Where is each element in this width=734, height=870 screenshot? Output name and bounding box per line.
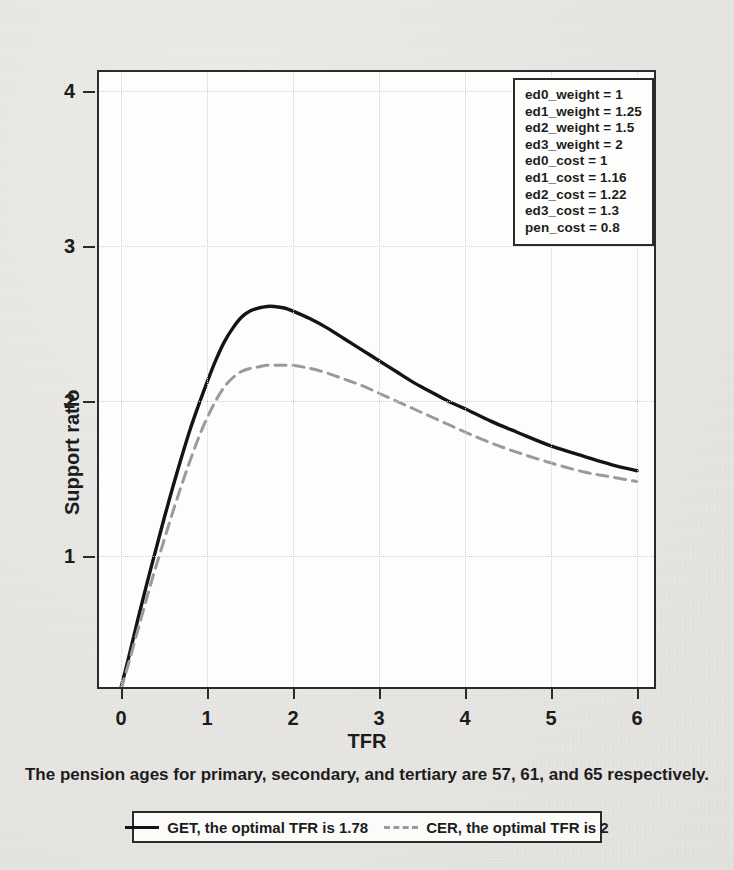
y-axis-tick [83, 246, 95, 248]
parameter-line-1: ed1_weight = 1.25 [525, 104, 642, 121]
x-axis-tick [379, 687, 381, 699]
gridline-vertical [121, 72, 122, 687]
x-axis-tick-label: 5 [531, 707, 571, 730]
parameter-line-0: ed0_weight = 1 [525, 87, 642, 104]
x-axis-tick [637, 687, 639, 699]
legend-item-get[interactable]: GET, the optimal TFR is 1.78 [125, 819, 368, 836]
x-axis-tick [465, 687, 467, 699]
x-axis-tick-label: 4 [445, 707, 485, 730]
legend-label-cer: CER, the optimal TFR is 2 [426, 819, 609, 836]
x-axis-tick [293, 687, 295, 699]
x-axis-label: TFR [0, 730, 734, 753]
parameter-line-4: ed0_cost = 1 [525, 153, 642, 170]
y-axis-tick-label: 4 [35, 80, 75, 103]
legend-label-get: GET, the optimal TFR is 1.78 [167, 819, 368, 836]
legend-item-cer[interactable]: CER, the optimal TFR is 2 [384, 819, 609, 836]
chart-legend: GET, the optimal TFR is 1.78 CER, the op… [132, 811, 602, 843]
y-axis-tick-label: 1 [35, 545, 75, 568]
gridline-horizontal [99, 556, 654, 557]
gridline-vertical [207, 72, 208, 687]
parameter-line-8: pen_cost = 0.8 [525, 220, 642, 237]
x-axis-tick-label: 6 [617, 707, 657, 730]
parameter-line-5: ed1_cost = 1.16 [525, 170, 642, 187]
y-axis-tick [83, 91, 95, 93]
gridline-horizontal [99, 401, 654, 402]
y-axis-tick [83, 556, 95, 558]
figure-chart-support-ratio-vs-tfr: 1234 0123456 Support ratio TFR ed0_weigh… [0, 0, 734, 870]
x-axis-tick-label: 1 [187, 707, 227, 730]
parameter-line-7: ed3_cost = 1.3 [525, 203, 642, 220]
gridline-vertical [379, 72, 380, 687]
y-axis-tick-label: 3 [35, 235, 75, 258]
x-axis-tick [207, 687, 209, 699]
y-axis-tick [83, 401, 95, 403]
dashed-line-icon [384, 826, 418, 829]
parameter-line-3: ed3_weight = 2 [525, 137, 642, 154]
x-axis-tick-label: 3 [359, 707, 399, 730]
parameter-line-2: ed2_weight = 1.5 [525, 120, 642, 137]
parameter-annotation-box: ed0_weight = 1ed1_weight = 1.25ed2_weigh… [513, 78, 654, 246]
parameter-line-6: ed2_cost = 1.22 [525, 187, 642, 204]
x-axis-tick-label: 2 [273, 707, 313, 730]
x-axis-tick [551, 687, 553, 699]
figure-caption: The pension ages for primary, secondary,… [0, 765, 734, 785]
x-axis-tick-label: 0 [101, 707, 141, 730]
y-axis-label: Support ratio [61, 389, 84, 515]
gridline-vertical [293, 72, 294, 687]
x-axis-tick [121, 687, 123, 699]
solid-line-icon [125, 826, 159, 829]
gridline-vertical [465, 72, 466, 687]
